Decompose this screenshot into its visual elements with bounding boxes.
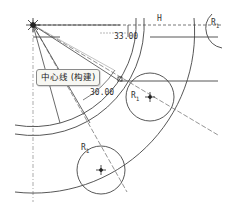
- entity-tooltip: 中心线 (构建): [36, 69, 100, 86]
- arc-outer[interactable]: [15, 18, 195, 193]
- center-mark-icon[interactable]: [96, 165, 106, 175]
- dimension-30[interactable]: 30.00: [90, 89, 114, 97]
- horizontal-constraint-label[interactable]: H: [157, 15, 162, 23]
- radius-label-right[interactable]: R1: [211, 19, 219, 29]
- sketch-canvas[interactable]: [0, 0, 229, 202]
- dimension-33[interactable]: 33.00: [114, 33, 138, 41]
- radial-line-2[interactable]: [33, 25, 127, 192]
- radius-label-upper-circle[interactable]: R1: [131, 92, 139, 102]
- radial-line-6[interactable]: [33, 25, 114, 70]
- radius-label-lower-circle[interactable]: R1: [81, 144, 89, 154]
- center-mark-icon[interactable]: [145, 92, 155, 102]
- origin-point-icon[interactable]: [26, 18, 40, 32]
